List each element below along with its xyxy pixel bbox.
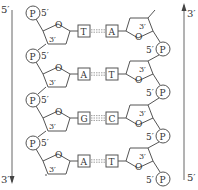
base-letter: T (109, 70, 115, 80)
ring-oxygen-label: O (135, 162, 142, 172)
left-nucleotide: P5′O3′G (26, 93, 90, 137)
dna-diagram: 5′ 3′ 3′ 5′ P5′O3′TAO3′P5′P5′O3′ATO3′P5′… (0, 0, 198, 190)
backbone-bond (38, 44, 46, 50)
right-nucleotide: CO3′P5′ (106, 98, 170, 143)
base-letter: G (81, 114, 88, 124)
base-letter: C (109, 114, 116, 124)
right-nucleotide: TO3′P5′ (106, 142, 170, 186)
three-prime-label: 3′ (49, 122, 56, 131)
ring-oxygen-label: O (135, 32, 142, 42)
phosphate-label: P (160, 88, 166, 98)
hydrogen-bonds (91, 30, 105, 32)
three-prime-label: 3′ (139, 152, 146, 161)
three-prime-label: 3′ (139, 109, 146, 118)
phosphate-label: P (30, 96, 36, 106)
phosphate-label: P (160, 175, 166, 185)
backbone-end (148, 10, 155, 18)
ring-oxygen-label: O (55, 20, 62, 30)
hydrogen-bonds (91, 73, 105, 75)
left-strand-top-label: 5′ (1, 4, 10, 15)
five-prime-label: 5′ (41, 8, 49, 18)
backbone-bond (148, 55, 159, 61)
hydrogen-bonds (91, 116, 105, 121)
base-letter: A (108, 27, 116, 37)
backbone-bond (38, 87, 46, 94)
three-prime-label: 3′ (139, 65, 146, 74)
three-prime-label: 3′ (49, 165, 56, 174)
phosphate-label: P (160, 45, 166, 55)
dna-structure-canvas: 5′ 3′ 3′ 5′ P5′O3′TAO3′P5′P5′O3′ATO3′P5′… (0, 0, 198, 190)
right-nucleotide: TO3′P5′ (106, 55, 170, 99)
ring-oxygen-label: O (55, 150, 62, 160)
base-letter: T (109, 157, 115, 167)
phosphate-label: P (30, 9, 36, 19)
five-prime-label: 5′ (41, 51, 49, 61)
phosphate-label: P (160, 132, 166, 142)
phosphate-label: P (30, 139, 36, 149)
hydrogen-bonds (91, 160, 105, 162)
phosphate-label: P (30, 52, 36, 62)
ring-oxygen-label: O (135, 119, 142, 129)
left-strand-arrow (10, 10, 15, 184)
five-prime-label: 5′ (41, 138, 49, 148)
left-nucleotide: P5′O3′T (26, 6, 90, 50)
base-letter: A (80, 70, 88, 80)
three-prime-label: 3′ (139, 22, 146, 31)
base-letter: T (81, 27, 87, 37)
left-nucleotide: P5′O3′A (26, 49, 90, 94)
right-strand-bottom-label: 5′ (187, 172, 196, 183)
five-prime-label: 5′ (146, 175, 154, 185)
left-strand-bottom-label: 3′ (1, 174, 10, 185)
base-letter: A (80, 157, 88, 167)
right-strand-top-label: 3′ (187, 8, 196, 19)
five-prime-label: 5′ (146, 132, 154, 142)
backbone-bond (38, 131, 46, 137)
three-prime-label: 3′ (49, 78, 56, 87)
five-prime-label: 5′ (146, 45, 154, 55)
five-prime-label: 5′ (41, 95, 49, 105)
backbone-bond (148, 142, 159, 148)
right-nucleotide: AO3′P5′ (106, 10, 170, 56)
three-prime-label: 3′ (49, 35, 56, 44)
ring-oxygen-label: O (55, 63, 62, 73)
backbone-bond (148, 98, 159, 105)
five-prime-label: 5′ (146, 88, 154, 98)
ring-oxygen-label: O (135, 75, 142, 85)
right-strand-arrow (182, 3, 187, 180)
ring-oxygen-label: O (55, 107, 62, 117)
left-nucleotide: P5′O3′A (26, 136, 90, 176)
